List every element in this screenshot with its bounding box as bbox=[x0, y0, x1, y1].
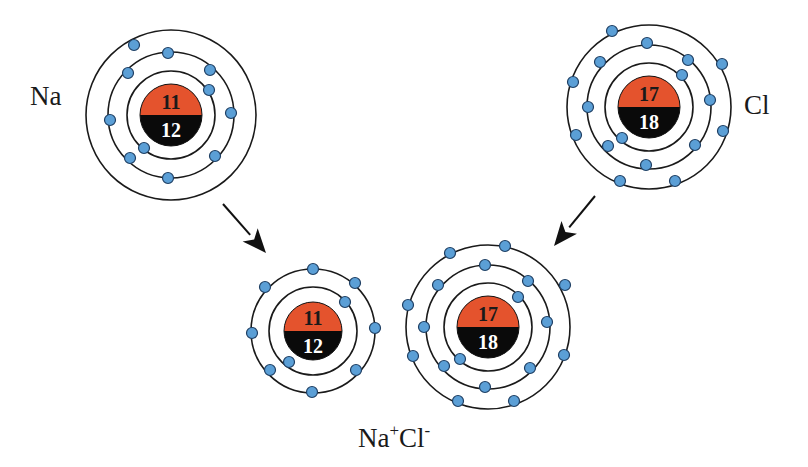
electron bbox=[559, 350, 570, 361]
electron bbox=[403, 300, 414, 311]
electron bbox=[204, 85, 215, 96]
cl-ion: 1718 bbox=[403, 241, 571, 410]
neutron-count: 18 bbox=[639, 111, 659, 133]
electron bbox=[603, 141, 614, 152]
neutron-count: 12 bbox=[303, 335, 323, 357]
electron bbox=[583, 102, 594, 113]
electron bbox=[717, 59, 728, 70]
electron bbox=[500, 241, 511, 252]
proton-count: 17 bbox=[639, 83, 659, 105]
electron bbox=[265, 365, 276, 376]
ionic-bond-diagram: 1112171811121718 Na Cl Na+Cl- bbox=[0, 0, 808, 467]
electron bbox=[670, 176, 681, 187]
electron bbox=[125, 153, 136, 164]
electron bbox=[690, 140, 701, 151]
electron bbox=[677, 70, 688, 81]
electron bbox=[260, 282, 271, 293]
electron bbox=[513, 292, 524, 303]
nucleus: 1112 bbox=[284, 302, 342, 360]
electron bbox=[642, 38, 653, 49]
electron bbox=[568, 77, 579, 88]
electron bbox=[683, 55, 694, 66]
label-cl: Cl bbox=[744, 90, 770, 120]
electron bbox=[453, 396, 464, 407]
electron bbox=[351, 365, 362, 376]
electron bbox=[419, 322, 430, 333]
nucleus: 1112 bbox=[140, 84, 202, 146]
electron bbox=[340, 297, 351, 308]
electron bbox=[163, 48, 174, 59]
electron bbox=[595, 57, 606, 68]
electron bbox=[509, 396, 520, 407]
electron bbox=[129, 40, 140, 51]
electron bbox=[523, 276, 534, 287]
arrows-layer bbox=[223, 196, 595, 253]
na-atom: 1112 bbox=[86, 30, 256, 200]
na-ion: 1112 bbox=[247, 264, 381, 398]
electron bbox=[480, 260, 491, 271]
electron bbox=[210, 151, 221, 162]
electron bbox=[433, 280, 444, 291]
electron bbox=[226, 108, 237, 119]
electron bbox=[718, 126, 729, 137]
product-na: Na bbox=[358, 423, 389, 453]
electron bbox=[615, 176, 626, 187]
electron bbox=[560, 280, 571, 291]
electron bbox=[408, 351, 419, 362]
electron bbox=[705, 95, 716, 106]
electron bbox=[307, 387, 318, 398]
nucleus: 1718 bbox=[618, 76, 680, 138]
product-cl: Cl bbox=[399, 423, 425, 453]
electron bbox=[163, 173, 174, 184]
electron bbox=[247, 328, 258, 339]
proton-count: 11 bbox=[304, 307, 323, 329]
neutron-count: 12 bbox=[161, 119, 181, 141]
electron bbox=[455, 354, 466, 365]
label-product-nacl: Na+Cl- bbox=[358, 421, 431, 453]
electron bbox=[284, 357, 295, 368]
neutron-count: 18 bbox=[478, 331, 498, 353]
product-na-charge: + bbox=[389, 421, 399, 440]
nucleus: 1718 bbox=[457, 296, 519, 358]
electron bbox=[370, 323, 381, 334]
product-cl-charge: - bbox=[425, 421, 431, 440]
electron bbox=[571, 130, 582, 141]
arrow-na-to-ion-icon bbox=[223, 204, 266, 253]
electron bbox=[480, 382, 491, 393]
electron bbox=[641, 160, 652, 171]
atoms-layer: 1112171811121718 bbox=[86, 25, 731, 409]
arrow-cl-to-ion-icon bbox=[554, 196, 595, 246]
electron bbox=[308, 264, 319, 275]
cl-atom: 1718 bbox=[567, 25, 731, 189]
electron bbox=[105, 115, 116, 126]
electron bbox=[525, 363, 536, 374]
electron bbox=[445, 248, 456, 259]
electron bbox=[607, 26, 618, 37]
label-na: Na bbox=[30, 81, 61, 111]
electron bbox=[350, 278, 361, 289]
electron bbox=[439, 361, 450, 372]
proton-count: 17 bbox=[478, 303, 498, 325]
electron bbox=[617, 133, 628, 144]
electron bbox=[123, 68, 134, 79]
electron bbox=[205, 65, 216, 76]
electron bbox=[542, 317, 553, 328]
proton-count: 11 bbox=[162, 91, 181, 113]
electron bbox=[139, 143, 150, 154]
